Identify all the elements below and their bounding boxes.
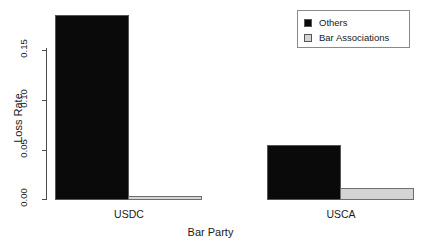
y-tick-1 xyxy=(42,150,46,151)
legend-item-others: Others xyxy=(304,15,403,30)
bar-chart: 0.00 0.05 0.10 0.15 Loss Rate USDC USCA … xyxy=(0,0,421,245)
legend-swatch-others-icon xyxy=(304,19,312,27)
x-tick-label-usdc: USDC xyxy=(114,208,144,220)
bar-usca-others xyxy=(267,145,341,200)
legend-item-bar-associations: Bar Associations xyxy=(304,30,403,45)
y-tick-label-0: 0.00 xyxy=(18,181,29,215)
x-tick-label-usca: USCA xyxy=(326,208,355,220)
y-axis-line xyxy=(46,48,47,200)
bar-usdc-bar-associations xyxy=(128,196,202,200)
legend-label-bar-associations: Bar Associations xyxy=(319,33,389,43)
legend-label-others: Others xyxy=(319,18,348,28)
x-axis-title: Bar Party xyxy=(0,226,421,238)
bar-usca-bar-associations xyxy=(340,188,414,200)
y-tick-3 xyxy=(42,50,46,51)
y-tick-2 xyxy=(42,100,46,101)
chart-legend: Others Bar Associations xyxy=(297,10,410,48)
y-axis-title: Loss Rate xyxy=(12,78,24,158)
y-tick-label-3: 0.15 xyxy=(18,32,29,66)
bar-usdc-others xyxy=(55,15,129,200)
y-tick-0 xyxy=(42,199,46,200)
legend-swatch-bar-associations-icon xyxy=(304,34,312,42)
